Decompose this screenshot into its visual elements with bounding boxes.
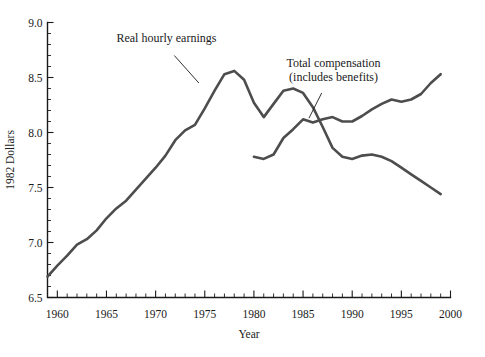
annotation-real-hourly-earnings: Real hourly earnings — [116, 31, 216, 45]
x-tick-label: 2000 — [439, 308, 462, 320]
x-tick-label: 1980 — [242, 308, 265, 320]
x-axis-tick-labels: 196019651970197519801985199019952000 — [46, 308, 462, 320]
series-annotations: Real hourly earningsTotal compensation(i… — [116, 31, 380, 118]
x-tick-label: 1975 — [193, 308, 216, 320]
x-tick-label: 1970 — [144, 308, 167, 320]
x-tick-label: 1960 — [46, 308, 69, 320]
y-tick-label: 7.5 — [28, 182, 43, 194]
line-chart: 6.57.07.58.08.59.0 196019651970197519801… — [0, 0, 485, 357]
y-axis-tick-labels: 6.57.07.58.08.59.0 — [28, 17, 43, 304]
data-series — [48, 71, 441, 277]
y-tick-label: 7.0 — [28, 237, 43, 249]
x-tick-label: 1995 — [390, 308, 413, 320]
series-line — [48, 71, 441, 277]
y-tick-label: 8.0 — [28, 127, 43, 139]
annotation-leader-real-hourly-earnings — [174, 56, 199, 84]
x-tick-label: 1990 — [341, 308, 364, 320]
y-tick-label: 6.5 — [28, 292, 43, 304]
y-tick-label: 8.5 — [28, 72, 43, 84]
chart-container: 6.57.07.58.08.59.0 196019651970197519801… — [0, 0, 485, 357]
x-axis-title: Year — [238, 328, 259, 340]
y-tick-label: 9.0 — [28, 17, 43, 29]
series-line — [254, 74, 441, 159]
annotation-total-compensation: Total compensation(includes benefits) — [286, 56, 380, 84]
x-tick-label: 1965 — [95, 308, 118, 320]
x-tick-label: 1985 — [292, 308, 315, 320]
y-axis-title: 1982 Dollars — [4, 130, 16, 190]
